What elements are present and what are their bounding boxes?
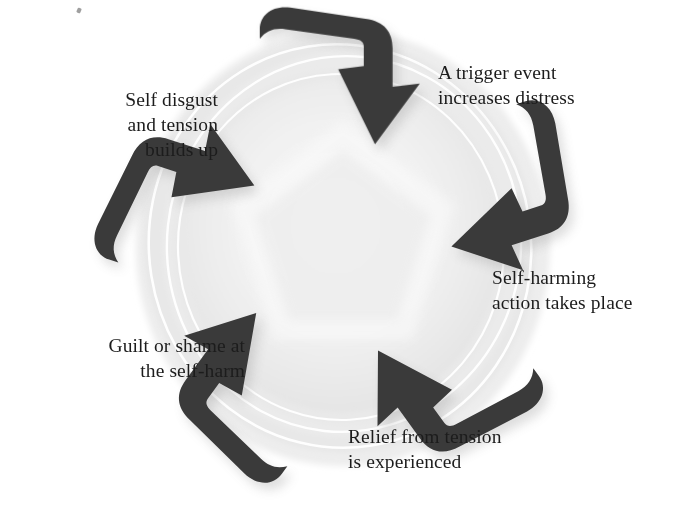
cycle-arrow-ring [0,0,685,506]
arrow-stage-2-selfharm [416,94,596,289]
diagram-canvas: A trigger event increases distress Self-… [0,0,685,506]
label-self-harming-action: Self-harming action takes place [492,265,632,315]
label-guilt-or-shame: Guilt or shame at the self-harm [45,333,245,383]
label-self-disgust: Self disgust and tension builds up [58,87,218,162]
arrow-stage-1-trigger [260,7,420,144]
arrows-svg [0,0,685,506]
label-trigger-event: A trigger event increases distress [438,60,575,110]
label-relief-from-tension: Relief from tension is experienced [348,424,502,474]
arrow-stage-4-guilt [139,287,349,492]
